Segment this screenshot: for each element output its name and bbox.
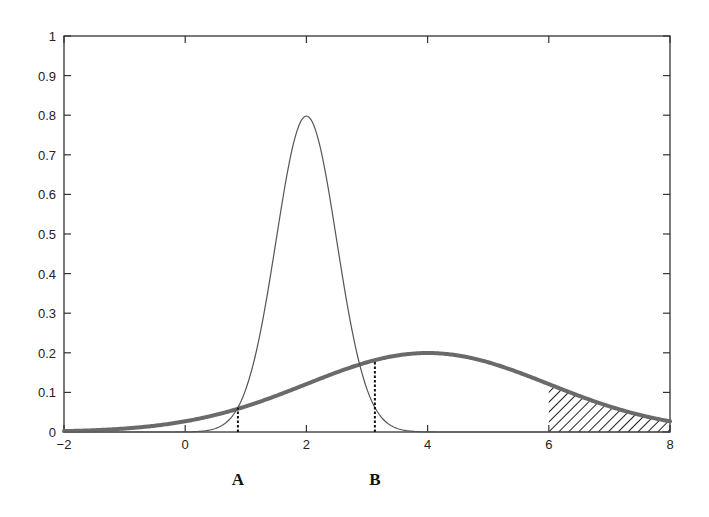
y-tick-label: 1 [49, 29, 56, 44]
narrow-gaussian-curve [64, 116, 670, 432]
y-axis-ticks: 00.10.20.30.40.50.60.70.80.91 [38, 29, 670, 440]
y-tick-label: 0.5 [38, 227, 56, 242]
x-tick-label: −2 [57, 437, 72, 452]
y-tick-label: 0 [49, 425, 56, 440]
chart: −202468 00.10.20.30.40.50.60.70.80.91 A … [0, 0, 709, 517]
y-tick-label: 0.6 [38, 187, 56, 202]
annotations [238, 360, 375, 432]
x-tick-label: 4 [424, 437, 431, 452]
y-tick-label: 0.7 [38, 148, 56, 163]
y-tick-label: 0.8 [38, 108, 56, 123]
x-tick-label: 6 [545, 437, 552, 452]
x-tick-label: 0 [182, 437, 189, 452]
y-tick-label: 0.4 [38, 267, 56, 282]
y-tick-label: 0.1 [38, 385, 56, 400]
point-label-b: B [369, 470, 380, 489]
point-label-a: A [232, 470, 245, 489]
x-tick-label: 2 [303, 437, 310, 452]
x-tick-label: 8 [666, 437, 673, 452]
y-tick-label: 0.2 [38, 346, 56, 361]
plot-frame [64, 36, 670, 432]
y-tick-label: 0.3 [38, 306, 56, 321]
y-tick-label: 0.9 [38, 69, 56, 84]
x-axis-ticks: −202468 [57, 36, 674, 452]
